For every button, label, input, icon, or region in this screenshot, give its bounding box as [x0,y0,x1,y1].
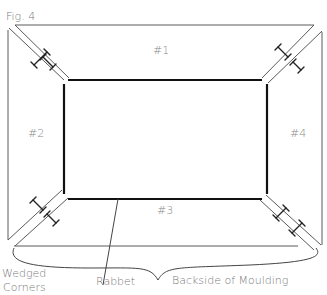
wedge-icon [275,44,291,60]
piece-label-1: #1 [153,45,169,56]
piece-label-4: #4 [290,128,306,139]
wedged-corners-label-line1: Wedged [2,268,46,279]
wedge-icon [273,205,289,221]
piece-label-2: #2 [28,128,44,139]
wedged-corners-label-line2: Corners [3,282,46,293]
backside-label: Backside of Moulding [172,275,288,286]
figure-title: Fig. 4 [6,11,35,22]
rabbet-outline [64,80,267,199]
rabbet-label: Rabbet [96,276,135,287]
wedge-icon [290,59,304,73]
piece-label-3: #3 [157,205,173,216]
rabbet-leader [103,199,118,285]
wedge-icon [30,197,46,213]
